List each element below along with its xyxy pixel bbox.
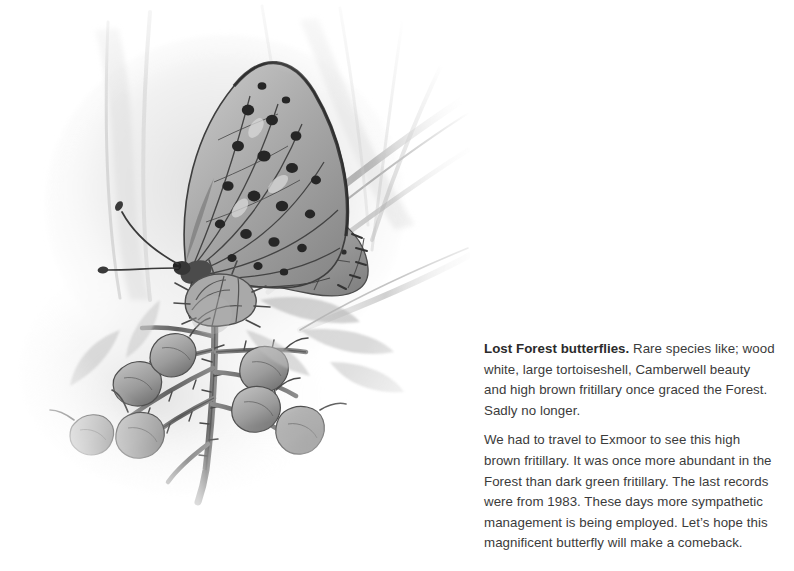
- butterfly-illustration-svg: [0, 0, 470, 510]
- caption-paragraph-2: We had to travel to Exmoor to see this h…: [484, 430, 776, 554]
- caption-paragraph-1: Lost Forest butterflies. Rare species li…: [484, 339, 776, 421]
- caption-lead-in: Lost Forest butterflies.: [484, 341, 629, 356]
- butterfly-illustration: [0, 0, 470, 510]
- page-canvas: Lost Forest butterflies. Rare species li…: [0, 0, 794, 571]
- caption-block: Lost Forest butterflies. Rare species li…: [484, 339, 776, 554]
